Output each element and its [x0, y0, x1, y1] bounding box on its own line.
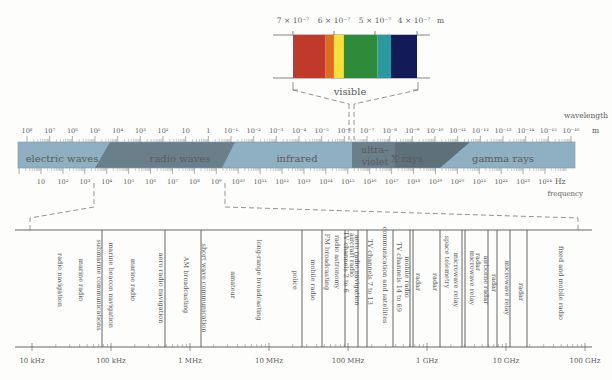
frequency-label: 10¹⁷ — [385, 178, 399, 186]
region-label-ultraviolet-2: violet — [361, 156, 389, 167]
radio-use-label: radar — [431, 273, 439, 292]
visible-band-orange — [325, 35, 334, 78]
radio-use-label: amateur — [229, 271, 237, 300]
radio-use-label: fixed and mobile radio — [557, 246, 565, 320]
wavelength-label: 10⁻¹¹ — [449, 127, 466, 135]
wavelength-label: 10⁻¹⁰ — [427, 127, 444, 135]
wavelength-label: 10⁻³ — [269, 127, 284, 135]
visible-band-green — [344, 35, 377, 78]
region-label-gamma-rays: gamma rays — [472, 153, 534, 164]
frequency-labels: 1010²10³10⁴10⁵10⁶10⁷10⁸10⁹10¹⁰10¹¹10¹²10… — [37, 178, 552, 186]
region-label-electric-waves: electric waves — [26, 153, 99, 164]
wavelength-label: 10⁻¹³ — [495, 127, 512, 135]
visible-wl-label: 6 × 10⁻⁷ — [318, 16, 350, 25]
wavelength-label: 10³ — [135, 127, 146, 135]
visible-bands — [293, 31, 417, 78]
radio-use-label: microwave relay — [452, 253, 460, 308]
wavelength-label: 10⁶ — [67, 127, 78, 135]
frequency-label: 10² — [57, 178, 68, 186]
radio-use-label: communication and satellites — [381, 227, 389, 324]
frequency-label: 10¹⁶ — [363, 178, 377, 186]
radio-axis-label: 10 MHz — [255, 357, 283, 365]
wavelength-label: 10⁻⁸ — [383, 127, 398, 135]
region-label-ultraviolet-1: ultra– — [361, 144, 389, 155]
frequency-label: 10 — [37, 178, 45, 186]
radio-use-label: radio navigation — [56, 253, 64, 307]
visible-band-red — [293, 35, 325, 78]
wavelength-ticks — [27, 136, 571, 142]
wavelength-label: 10⁻⁹ — [405, 127, 420, 135]
radio-use-label: radio astronomy — [333, 235, 341, 289]
frequency-label: 10²¹ — [473, 178, 487, 186]
radio-use-label: marine radio — [129, 259, 137, 302]
radio-axis-labels: 10 kHz100 kHz1 MHz10 MHz100 MHz1 GHz10 G… — [19, 357, 600, 365]
wavelength-label: 10⁻¹⁴ — [517, 127, 534, 135]
visible-title: visible — [333, 86, 367, 97]
frequency-title: frequency — [547, 190, 583, 198]
wavelength-label: 10² — [158, 127, 169, 135]
frequency-label: 10¹² — [275, 178, 289, 186]
radio-use-label: radar — [414, 273, 422, 292]
wavelength-labels: 10⁸10⁷10⁶10⁵10⁴10³10²10110⁻¹10⁻²10⁻³10⁻⁴… — [22, 127, 580, 135]
frequency-label: 10¹³ — [297, 178, 311, 186]
frequency-label: 10¹⁴ — [319, 178, 333, 186]
wavelength-label: 10⁻⁶ — [337, 127, 352, 135]
frequency-ticks — [19, 168, 566, 174]
frequency-label: 10²⁰ — [451, 178, 465, 186]
wavelength-label: 1 — [206, 127, 210, 135]
wavelength-label: 10⁻⁷ — [360, 127, 375, 135]
frequency-label: 10¹⁰ — [231, 178, 245, 186]
frequency-label: 10¹⁸ — [407, 178, 421, 186]
wavelength-title: wavelength — [564, 111, 608, 120]
frequency-label: 10³ — [79, 178, 90, 186]
frequency-label: 10²² — [494, 178, 508, 186]
wavelength-label: 10⁻¹⁵ — [540, 127, 557, 135]
wavelength-label: 10 — [182, 127, 190, 135]
wavelength-label: 10⁻⁴ — [292, 127, 307, 135]
frequency-label: 10²⁴ — [538, 178, 552, 186]
frequency-unit: Hz — [555, 177, 566, 186]
radio-use-label: long-range broadcasting — [255, 240, 263, 321]
wavelength-label: 10⁷ — [44, 127, 55, 135]
radio-use-label: airborne radar — [482, 256, 490, 305]
radio-axis-label: 1 MHz — [178, 357, 202, 365]
radio-axis-label: 100 GHz — [570, 357, 601, 365]
radio-axis-label: 10 kHz — [19, 357, 44, 365]
radio-use-label: TV channels 14 to 69 — [395, 242, 403, 312]
visible-unit: m — [437, 16, 444, 25]
visible-inset: 7 × 10⁻⁷ 6 × 10⁻⁷ 5 × 10⁻⁷ 4 × 10⁻⁷ m vi… — [273, 16, 444, 140]
frequency-label: 10⁵ — [123, 178, 134, 186]
radio-use-label: radar — [474, 253, 482, 272]
wavelength-label: 10⁻¹⁶ — [563, 127, 580, 135]
region-label-infrared: infrared — [276, 153, 318, 164]
radio-use-label: police — [291, 270, 299, 290]
frequency-label: 10⁶ — [145, 178, 156, 186]
radio-use-label: radar — [490, 274, 498, 293]
radio-axis-label: 100 kHz — [96, 357, 126, 365]
radio-use-label: FM broadcasting — [323, 234, 331, 290]
radio-axis-label: 100 MHz — [332, 357, 365, 365]
radio-use-label: aero radio navigation — [353, 235, 361, 306]
radio-use-label: marine beacon navigation — [107, 242, 115, 328]
spectrum-band: wavelength 10⁸10⁷10⁶10⁵10⁴10³10²10110⁻¹1… — [18, 111, 608, 230]
visible-band-violet — [391, 35, 417, 78]
wavelength-label: 10⁻² — [247, 127, 262, 135]
radio-use-label: microwave relay — [503, 261, 511, 316]
frequency-label: 10⁴ — [101, 178, 112, 186]
radio-use-label: submarine communications — [95, 240, 103, 331]
radio-axis-label: 10 GHz — [493, 357, 520, 365]
radio-use-label: short wave communication — [200, 244, 208, 333]
frequency-label: 10⁷ — [167, 178, 178, 186]
wavelength-label: 10⁻¹² — [472, 127, 489, 135]
radio-use-label: AM broadcasting — [182, 256, 190, 314]
frequency-label: 10¹⁹ — [429, 178, 443, 186]
radio-use-label: radar — [517, 283, 525, 302]
wavelength-unit: m — [592, 126, 599, 135]
wavelength-label: 10⁻⁵ — [315, 127, 330, 135]
region-label-x-rays: X rays — [391, 153, 423, 164]
radio-uses-panel: 10 kHz100 kHz1 MHz10 MHz100 MHz1 GHz10 G… — [15, 227, 601, 365]
radio-use-label: marine radio — [77, 259, 85, 302]
visible-band-blue-green — [377, 35, 391, 78]
radio-use-label: aero radio navigation — [157, 253, 165, 324]
wavelength-label: 10⁵ — [90, 127, 101, 135]
